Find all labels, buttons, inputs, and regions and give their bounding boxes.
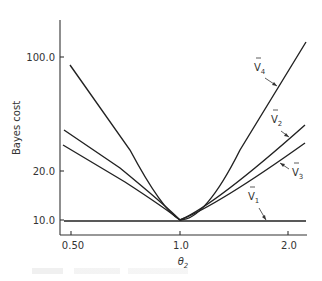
curve-v2	[64, 125, 305, 220]
y-axis-title: Bayes cost	[11, 101, 22, 155]
y-tick-label-10: 10.0	[33, 215, 55, 226]
y-tick-label-100: 100.0	[26, 52, 55, 63]
label-v3: V3	[280, 163, 303, 181]
svg-text:V4: V4	[254, 62, 266, 76]
faint-caption	[32, 268, 292, 274]
x-tick-label-1.0: 1.0	[173, 240, 189, 251]
label-v4: V4	[254, 58, 277, 86]
curve-v4	[70, 42, 306, 220]
bayes-cost-chart: 100.0 20.0 10.0 0.50 1.0 2.0 Bayes cost …	[0, 0, 322, 281]
label-v1: V1	[248, 187, 266, 220]
label-v2: V2	[271, 110, 289, 137]
svg-text:V3: V3	[292, 167, 303, 181]
series-curves	[63, 42, 306, 221]
svg-text:V2: V2	[271, 114, 282, 128]
x-tick-label-2.0: 2.0	[281, 240, 297, 251]
axes	[60, 20, 307, 235]
x-tick-label-0.5: 0.50	[62, 240, 84, 251]
y-tick-label-20: 20.0	[33, 166, 55, 177]
svg-text:V1: V1	[248, 191, 259, 205]
